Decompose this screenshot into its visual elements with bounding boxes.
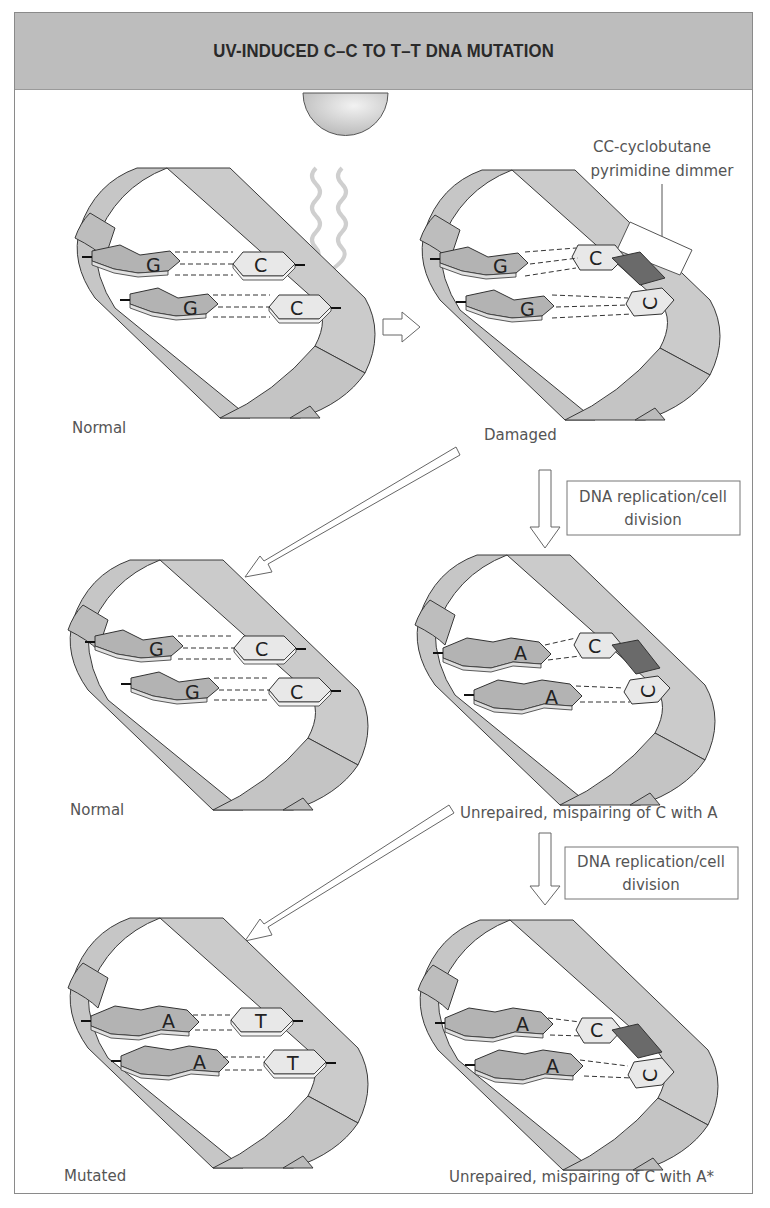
base-letter: A [193,1051,206,1073]
base-letter: A [545,686,558,708]
dimer-annotation: CC-cyclobutane [593,138,711,156]
base-letter: T [254,1010,267,1032]
step-box: DNA replication/cell division [567,481,740,535]
mutation-diagram: G C G C Normal CC-cyclobutane pyrimidine… [0,0,770,1208]
base-letter: A [546,1055,559,1077]
uv-wave-icon [334,168,346,268]
base-letter: C [589,247,602,269]
dimer-annotation: pyrimidine dimmer [590,162,734,180]
base-letter: A [162,1010,175,1032]
arrow-diagonal-icon [245,447,460,577]
base-letter: G [185,681,200,703]
panel-mutated: A A T T Mutated [64,918,368,1185]
base-letter: C [639,1069,661,1082]
base-letter: G [183,297,198,319]
base-letter: C [290,297,303,319]
svg-text:DNA replication/cell: DNA replication/cell [577,853,725,871]
panel-normal-1: G C G C Normal [72,93,388,437]
base-letter: G [520,298,535,320]
panel-label: Normal [70,801,124,819]
panel-label: Unrepaired, mispairing of C with A* [449,1168,714,1186]
arrow-diagonal-icon [245,805,454,941]
arrow-down-icon [530,833,560,905]
base-letter: A [516,1013,529,1035]
base-letter: C [588,635,601,657]
arrow-right-icon [383,312,420,342]
base-letter: A [514,642,527,664]
arrow-down-icon [530,470,560,548]
panel-label: Normal [72,419,126,437]
uv-source-icon [303,93,388,136]
base-letter: C [590,1019,603,1041]
panel-label: Damaged [484,426,557,444]
base-letter: G [146,254,161,276]
base-letter: C [290,681,303,703]
panel-mispaired-1: A A C C Unrepaired, mispairing of C with… [415,555,718,822]
base-letter: C [255,638,268,660]
svg-text:division: division [624,511,681,529]
base-letter: C [637,685,659,698]
panel-normal-2: G C G C Normal [68,560,368,819]
panel-label: Mutated [64,1167,126,1185]
base-letter: C [254,254,267,276]
base-letter: G [493,255,508,277]
panel-label: Unrepaired, mispairing of C with A [460,804,718,822]
base-letter: T [286,1052,299,1074]
svg-text:DNA replication/cell: DNA replication/cell [579,488,727,506]
panel-damaged: CC-cyclobutane pyrimidine dimmer G G C C… [420,138,734,444]
base-letter: C [639,297,661,310]
step-box: DNA replication/cell division [565,847,738,899]
base-letter: G [149,638,164,660]
svg-text:division: division [622,876,679,894]
panel-mispaired-2: A A C C Unrepaired, mispairing of C with… [418,920,718,1186]
